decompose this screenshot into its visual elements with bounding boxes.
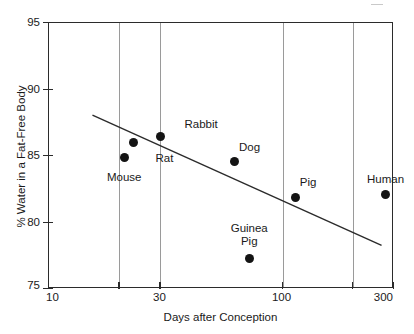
scatter-chart-figure: % Water in a Fat-Free Body MouseRatRabbi… [0, 0, 414, 334]
plot-area: MouseRatRabbitDogGuinea PigPigHuman [48, 22, 393, 288]
x-axis-tick [393, 282, 394, 289]
x-axis-tick-label: 30 [153, 291, 166, 303]
point-label-rabbit: Rabbit [184, 118, 217, 131]
data-point-pig[interactable] [291, 193, 300, 202]
x-axis-tick [118, 282, 119, 289]
y-axis-tick [43, 89, 53, 90]
point-label-pig: Pig [300, 176, 317, 189]
data-point-human[interactable] [381, 190, 390, 199]
y-axis-tick-label: 75 [14, 279, 40, 291]
data-point-guinea-pig[interactable] [245, 254, 254, 263]
data-point-rat[interactable] [129, 138, 138, 147]
gridline-vertical [353, 23, 354, 287]
point-label-guinea-pig: Guinea Pig [231, 222, 268, 247]
y-axis-tick [43, 288, 53, 289]
y-axis-tick-label: 90 [14, 83, 40, 95]
data-point-rabbit[interactable] [156, 132, 165, 141]
point-label-mouse: Mouse [107, 171, 142, 184]
point-label-human: Human [367, 173, 404, 186]
point-label-dog: Dog [239, 141, 260, 154]
x-axis-tick [159, 282, 160, 289]
x-axis-tick-label: 10 [46, 291, 59, 303]
x-axis-title: Days after Conception [48, 311, 393, 324]
x-axis-tick-label: 300 [374, 291, 393, 303]
y-axis-tick [43, 222, 53, 223]
data-point-dog[interactable] [230, 157, 239, 166]
scan-artifact [371, 4, 383, 5]
y-axis-tick [43, 155, 53, 156]
y-axis-tick-label: 80 [14, 216, 40, 228]
y-axis-tick-label: 95 [14, 16, 40, 28]
x-axis-tick [282, 282, 283, 289]
x-axis-tick [352, 282, 353, 289]
y-axis-tick [43, 22, 53, 23]
x-axis-tick-label: 100 [272, 291, 291, 303]
y-axis-tick-label: 85 [14, 149, 40, 161]
point-label-rat: Rat [155, 152, 173, 165]
gridline-vertical [283, 23, 284, 287]
data-point-mouse[interactable] [120, 153, 129, 162]
